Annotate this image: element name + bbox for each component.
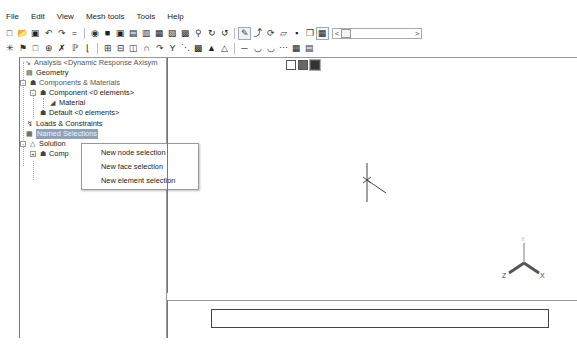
equals-icon[interactable]: =	[69, 28, 80, 39]
expand-toggle[interactable]: +	[30, 151, 36, 157]
menu-item-new-element-selection[interactable]: New element selection	[101, 175, 175, 187]
table-icon[interactable]: ▦	[291, 43, 302, 54]
tree-item-label: Components & Materials	[39, 78, 120, 88]
y-icon[interactable]: Y	[167, 43, 178, 54]
circle-target-icon[interactable]: ⊕	[43, 43, 54, 54]
dots-icon[interactable]: ⋱	[180, 43, 191, 54]
toolbar-separator	[84, 28, 85, 39]
x-axis-label: X	[540, 272, 545, 279]
open-icon[interactable]: 📂	[17, 28, 28, 39]
tree-item-geometry[interactable]: ▤ Geometry	[25, 68, 68, 78]
view-top-icon[interactable]: ▦	[154, 28, 165, 39]
z-axis-label: Z	[502, 272, 507, 279]
arch-icon[interactable]: ∩	[141, 43, 152, 54]
tree-item-label: Loads & Constraints	[36, 119, 103, 129]
new-file-icon[interactable]: □	[4, 28, 15, 39]
tree-item-loads-constraints[interactable]: ↯ Loads & Constraints	[25, 119, 103, 129]
slider-right-arrow[interactable]: >	[413, 29, 421, 38]
command-input[interactable]	[211, 309, 549, 328]
tree-item-label: Default <0 elements>	[49, 108, 119, 118]
origin-triad	[363, 163, 386, 202]
grid-icon[interactable]: ▦	[317, 28, 328, 39]
menu-tools[interactable]: Tools	[131, 10, 162, 24]
select-icon[interactable]: ✎	[239, 28, 250, 39]
axis-indicator: Y Z X	[502, 236, 545, 279]
view-right-icon[interactable]: ▥	[141, 28, 152, 39]
link-icon[interactable]: ⊞	[102, 43, 113, 54]
view-left-icon[interactable]: ▤	[128, 28, 139, 39]
named-selection-icon: ▦	[25, 130, 34, 139]
warning-icon[interactable]: ▲	[206, 43, 217, 54]
mesh-icon[interactable]: ▩	[193, 43, 204, 54]
link2-icon[interactable]: ⊟	[115, 43, 126, 54]
explode-icon[interactable]: ✳	[4, 43, 15, 54]
tree-item-named-selections[interactable]: ▦ Named Selections	[25, 129, 98, 139]
plane-icon[interactable]: ▱	[278, 28, 289, 39]
cylinder-icon[interactable]: ◫	[128, 43, 139, 54]
model-tree-pane: ↘ Analysis <Dynamic Response Axisym ▤ Ge…	[19, 57, 167, 338]
graphics-viewport[interactable]: Y Z X	[167, 57, 577, 293]
hierarchy-icon[interactable]: ⚑	[17, 43, 28, 54]
view-bottom-icon[interactable]: ▧	[167, 28, 178, 39]
triangle-icon[interactable]: △	[219, 43, 230, 54]
rotate-view-icon[interactable]: ⟳	[265, 28, 276, 39]
tree-item-label: Solution	[39, 139, 66, 149]
bowl-icon[interactable]: ◡	[252, 43, 263, 54]
square-icon[interactable]: □	[30, 43, 41, 54]
slider-thumb[interactable]	[341, 29, 351, 38]
menu-item-new-node-selection[interactable]: New node selection	[101, 147, 166, 159]
view-front-icon[interactable]: ■	[102, 28, 113, 39]
slider-track[interactable]	[351, 29, 413, 38]
view-iso-icon[interactable]: ◉	[89, 28, 100, 39]
collapse-toggle[interactable]: -	[20, 80, 26, 86]
main-toolbar: □ 📂 ▣ ↶ ↷ = ◉ ■ ▣ ▤ ▥ ▦ ▧ ▩ ⚲ ↻ ↺ ✎ ⤴ ⟳ …	[4, 26, 422, 40]
save-icon[interactable]: ▣	[30, 28, 41, 39]
view-back-icon[interactable]: ▣	[115, 28, 126, 39]
solution-icon: △	[28, 140, 37, 149]
bracket-icon[interactable]: ⌊	[82, 43, 93, 54]
zoom-icon[interactable]: ⚲	[193, 28, 204, 39]
tree-item-components-materials[interactable]: ☗ Components & Materials	[28, 78, 120, 88]
cross-icon[interactable]: ✗	[56, 43, 67, 54]
undo-icon[interactable]: ↶	[43, 28, 54, 39]
menu-help[interactable]: Help	[161, 10, 189, 24]
collapse-toggle[interactable]: -	[30, 90, 36, 96]
tree-item-solution-component[interactable]: ☗ Comp	[38, 149, 69, 159]
component-icon: ☗	[38, 150, 47, 159]
rotate-icon[interactable]: ↻	[206, 28, 217, 39]
line-icon[interactable]: ─	[239, 43, 250, 54]
analysis-icon: ↘	[23, 59, 32, 68]
node-tree-icon[interactable]: ℙ	[69, 43, 80, 54]
zoom-fit-icon[interactable]: ▩	[180, 28, 191, 39]
loads-icon: ↯	[25, 120, 34, 129]
menu-view[interactable]: View	[51, 10, 80, 24]
menu-item-new-face-selection[interactable]: New face selection	[101, 161, 163, 173]
redo-icon[interactable]: ↷	[56, 28, 67, 39]
component-icon: ☗	[38, 89, 47, 98]
tree-item-label: Analysis <Dynamic Response Axisym	[34, 58, 157, 68]
tree-item-material[interactable]: ◢ Material	[48, 98, 85, 108]
tree-item-component[interactable]: ☗ Component <0 elements>	[38, 88, 134, 98]
curve-icon[interactable]: ↷	[154, 43, 165, 54]
shaded-icon[interactable]: ▪	[291, 28, 302, 39]
collapse-toggle[interactable]: -	[20, 141, 26, 147]
box-icon[interactable]: ❐	[304, 28, 315, 39]
menu-mesh-tools[interactable]: Mesh tools	[80, 10, 131, 24]
z-axis-arrow	[509, 263, 524, 273]
tree-item-default[interactable]: ☗ Default <0 elements>	[38, 108, 119, 118]
toolbar-separator	[97, 43, 98, 54]
tree-line	[33, 161, 34, 180]
rotate-reverse-icon[interactable]: ↺	[219, 28, 230, 39]
table2-icon[interactable]: ▤	[304, 43, 315, 54]
pointer-dropdown-icon[interactable]: ⤴	[252, 28, 263, 39]
tree-item-solution[interactable]: △ Solution	[28, 139, 66, 149]
output-pane	[167, 300, 577, 338]
menu-edit[interactable]: Edit	[25, 10, 51, 24]
mesh-toolbar: ✳ ⚑ □ ⊕ ✗ ℙ ⌊ ⊞ ⊟ ◫ ∩ ↷ Y ⋱ ▩ ▲ △ ─ ◡ ◡ …	[4, 41, 315, 55]
toolbar-slider[interactable]: < >	[332, 28, 422, 39]
slider-left-arrow[interactable]: <	[333, 29, 341, 38]
menu-file[interactable]: File	[0, 10, 25, 24]
dots-small-icon[interactable]: ⋯	[278, 43, 289, 54]
bowl2-icon[interactable]: ◡	[265, 43, 276, 54]
tree-item-analysis[interactable]: ↘ Analysis <Dynamic Response Axisym	[23, 58, 157, 68]
